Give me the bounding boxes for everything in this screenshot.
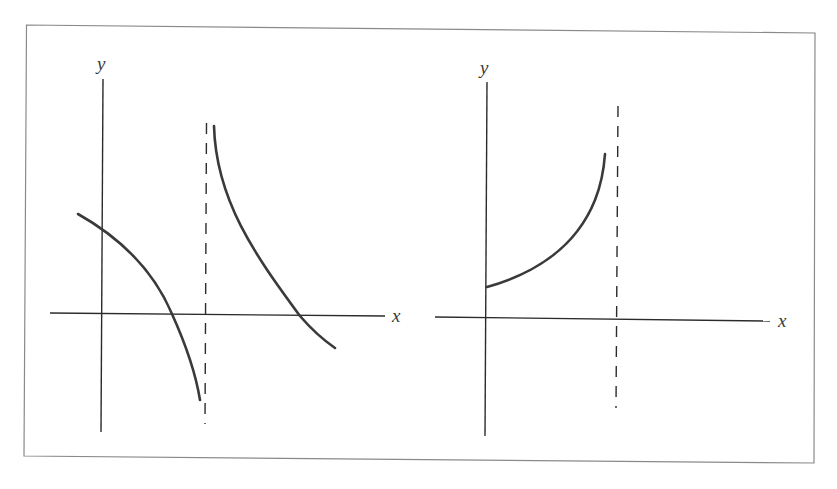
right-asymptote-dashed [616, 106, 618, 408]
left-graph-curve-left-branch [78, 214, 200, 400]
left-x-axis [50, 313, 385, 316]
left-graph: y x [50, 53, 401, 432]
left-asymptote-dashed [205, 123, 207, 424]
left-y-axis-label: y [95, 53, 106, 74]
function-graphs-figure: y x y x [0, 0, 837, 489]
right-y-axis [485, 82, 487, 436]
right-y-axis-label: y [478, 57, 489, 78]
left-x-axis-label: x [391, 305, 401, 326]
right-x-axis-label: x [777, 310, 787, 331]
right-graph: y x [435, 57, 787, 436]
left-y-axis [101, 79, 103, 432]
figure-frame [24, 25, 815, 463]
right-graph-curve [487, 154, 605, 287]
